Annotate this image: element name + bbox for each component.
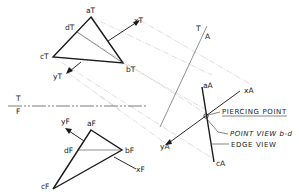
- arrow-head-icon: [66, 67, 73, 74]
- label-xA: xA: [244, 86, 254, 95]
- top-view: aT dT cT bT xT yT: [40, 6, 143, 81]
- arrow-head-icon: [65, 128, 72, 134]
- callout-piercing-point: PIERCING POINT: [222, 108, 287, 116]
- front-view: aF dF cF bF xF yF: [41, 117, 145, 191]
- line-xy-front-upper: [69, 131, 84, 141]
- label-dT: dT: [65, 23, 75, 32]
- label-aF: aF: [87, 119, 96, 128]
- label-xF: xF: [136, 165, 145, 174]
- label-dF: dF: [64, 146, 73, 155]
- edge-view-plane: [202, 87, 214, 162]
- callouts: PIERCING POINT POINT VIEW b-d EDGE VIEW: [207, 108, 292, 149]
- fold-label-a: A: [205, 32, 211, 41]
- descriptive-geometry-drawing: T F T A aT dT cT bT xT yT aF dF cF bF xF…: [0, 0, 299, 192]
- label-yF: yF: [61, 117, 70, 126]
- callout-point-view: POINT VIEW b-d: [230, 130, 292, 138]
- fold-line-t-a: T A: [160, 24, 211, 127]
- leader-point-view: [207, 119, 228, 134]
- label-bF: bF: [125, 146, 134, 155]
- fold-line-t-f: T F: [8, 94, 148, 116]
- projection-lines: [53, 17, 250, 160]
- label-aT: aT: [86, 6, 96, 15]
- label-yA: yA: [160, 142, 170, 151]
- fold-label-f: F: [16, 107, 20, 116]
- callout-edge-view: EDGE VIEW: [231, 141, 276, 149]
- label-cF: cF: [41, 182, 49, 191]
- label-cT: cT: [40, 52, 49, 61]
- label-aA: aA: [203, 81, 214, 90]
- label-xT: xT: [134, 16, 143, 25]
- plane-abc-front: [53, 130, 122, 189]
- fold-label-t-aux: T: [195, 24, 201, 33]
- label-bT: bT: [126, 65, 136, 74]
- line-xy-front-lower: [114, 157, 136, 169]
- fold-label-t: T: [15, 94, 21, 103]
- label-yT: yT: [53, 72, 62, 81]
- line-xy-top-upper: [108, 22, 137, 41]
- label-cA: cA: [216, 159, 226, 168]
- line-bd-top: [77, 32, 123, 63]
